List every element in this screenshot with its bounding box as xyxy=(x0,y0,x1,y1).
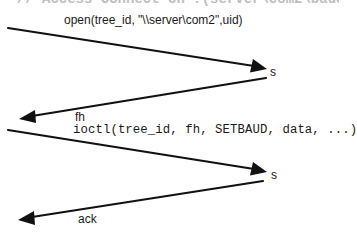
fh-reply-label: fh xyxy=(75,111,85,123)
ack-reply-label: ack xyxy=(78,213,97,225)
server-endpoint-label-2: s xyxy=(271,169,277,181)
ioctl-call-label: ioctl(tree_id, fh, SETBAUD, data, ...) xyxy=(73,124,357,136)
ack-reply-arrow xyxy=(18,181,263,225)
open-request-arrow xyxy=(8,28,267,73)
open-call-label: open(tree_id, "\\server\com2",uid) xyxy=(64,14,243,26)
server-endpoint-label: s xyxy=(270,66,276,78)
fh-reply-arrow xyxy=(19,78,266,123)
